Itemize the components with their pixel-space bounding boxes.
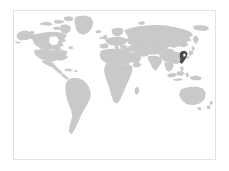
world-map-svg xyxy=(14,11,215,159)
world-locator-figure xyxy=(0,0,229,171)
land-tasmania xyxy=(197,107,201,110)
land-ireland xyxy=(100,37,103,39)
map-frame xyxy=(13,10,216,160)
